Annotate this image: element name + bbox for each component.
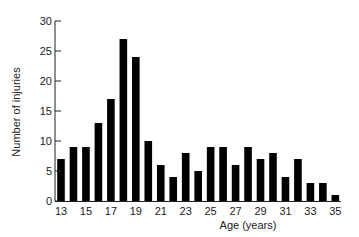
bar-age-28: [244, 147, 252, 201]
bar-age-31: [282, 177, 290, 201]
x-tick-label: 27: [229, 205, 241, 217]
x-tick-label: 31: [279, 205, 291, 217]
y-axis-title: Number of injuries: [10, 67, 22, 157]
bar-age-34: [319, 183, 327, 201]
bar-age-33: [307, 183, 315, 201]
y-tick-label: 20: [40, 75, 52, 87]
bar-age-29: [257, 159, 265, 201]
y-tick-label: 5: [46, 165, 52, 177]
bar-age-26: [219, 147, 227, 201]
bar-chart: 051015202530 131517192123252729313335 Ag…: [0, 0, 359, 237]
y-tick-label: 30: [40, 15, 52, 27]
bar-age-22: [169, 177, 177, 201]
x-axis-title: Age (years): [220, 219, 277, 231]
x-tick-label: 25: [204, 205, 216, 217]
x-tick-label: 17: [105, 205, 117, 217]
x-tick-label: 21: [155, 205, 167, 217]
bar-age-15: [82, 147, 90, 201]
bar-age-35: [332, 195, 340, 201]
bar-age-18: [120, 39, 128, 201]
x-tick-label: 33: [304, 205, 316, 217]
bar-age-23: [182, 153, 190, 201]
x-tick-label: 15: [80, 205, 92, 217]
bar-age-25: [207, 147, 215, 201]
x-tick-label: 29: [254, 205, 266, 217]
bar-age-20: [144, 141, 152, 201]
y-tick-label: 25: [40, 45, 52, 57]
x-axis: 131517192123252729313335: [55, 202, 342, 218]
bar-age-13: [57, 159, 65, 201]
y-tick-label: 15: [40, 105, 52, 117]
x-tick-label: 13: [55, 205, 67, 217]
bar-age-32: [294, 159, 302, 201]
x-tick-label: 23: [180, 205, 192, 217]
y-tick-label: 10: [40, 135, 52, 147]
bar-age-16: [95, 123, 103, 201]
x-tick-label: 19: [130, 205, 142, 217]
bar-age-30: [269, 153, 277, 201]
bar-age-14: [70, 147, 78, 201]
bar-age-17: [107, 99, 115, 201]
bar-age-27: [232, 165, 240, 201]
x-tick-label: 35: [329, 205, 341, 217]
bar-age-19: [132, 57, 140, 201]
bar-age-21: [157, 165, 165, 201]
y-tick-label: 0: [46, 195, 52, 207]
bars: [57, 39, 339, 201]
bar-age-24: [194, 171, 202, 201]
